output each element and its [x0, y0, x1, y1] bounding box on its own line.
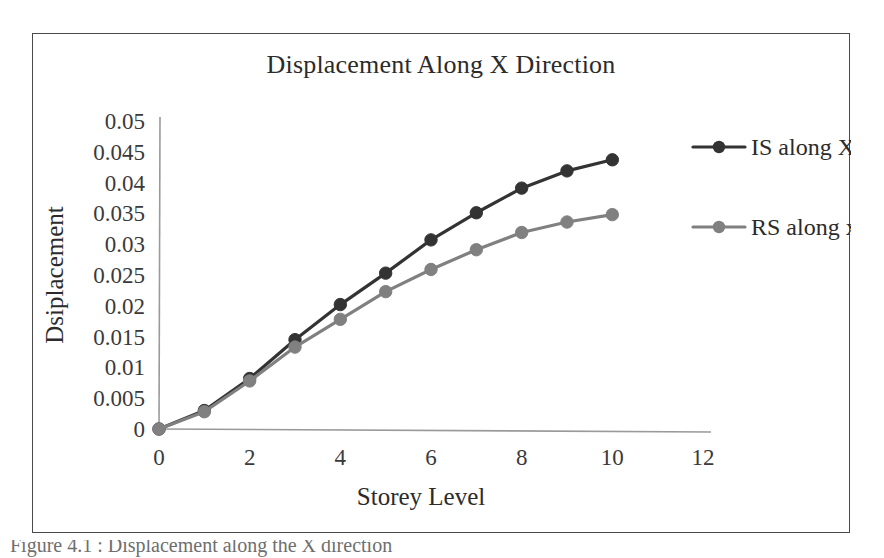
y-tick-label: 0.02 [105, 294, 145, 319]
data-point-marker[interactable] [515, 182, 527, 194]
figure-caption-strip: Figure 4.1 : Displacement along the X di… [0, 540, 884, 558]
x-axis-title: Storey Level [357, 483, 485, 510]
data-point-marker[interactable] [425, 234, 437, 246]
y-tick-label: 0 [134, 417, 146, 442]
legend-marker-icon [713, 221, 725, 233]
data-point-marker[interactable] [334, 313, 346, 325]
y-tick-label: 0.03 [105, 232, 145, 257]
data-point-marker[interactable] [379, 267, 391, 279]
series-2 [153, 208, 619, 435]
data-point-marker[interactable] [153, 423, 165, 435]
data-point-marker[interactable] [561, 165, 573, 177]
data-point-marker[interactable] [379, 285, 391, 297]
y-tick-label: 0.025 [93, 263, 145, 288]
y-tick-label: 0.01 [105, 355, 145, 380]
legend-label: RS along x [751, 214, 851, 240]
data-point-marker[interactable] [606, 154, 618, 166]
y-tick-label: 0.04 [105, 171, 146, 196]
legend-label: IS along X [751, 134, 851, 160]
x-tick-label: 10 [601, 445, 624, 470]
data-point-marker[interactable] [470, 244, 482, 256]
x-tick-label: 6 [425, 445, 437, 470]
figure-caption: Figure 4.1 : Displacement along the X di… [10, 540, 392, 557]
data-point-marker[interactable] [334, 298, 346, 310]
legend-marker-icon [713, 141, 725, 153]
data-point-marker[interactable] [425, 263, 437, 275]
y-tick-label: 0.045 [93, 140, 145, 165]
series-line [159, 215, 612, 429]
x-axis-line [159, 429, 711, 432]
x-tick-label: 8 [516, 445, 528, 470]
data-point-marker[interactable] [470, 207, 482, 219]
data-point-marker[interactable] [198, 406, 210, 418]
y-tick-label: 0.035 [93, 201, 145, 226]
x-tick-label: 4 [335, 445, 347, 470]
figure-container: Displacement Along X Direction 00.0050.0… [0, 0, 884, 558]
x-tick-label: 0 [153, 445, 165, 470]
y-tick-label: 0.015 [93, 325, 145, 350]
data-point-marker[interactable] [606, 208, 618, 220]
x-tick-label: 12 [692, 445, 715, 470]
chart-plot-area: 00.0050.010.0150.020.0250.030.0350.040.0… [33, 34, 851, 534]
y-axis-title: Dsiplacement [41, 206, 68, 344]
x-tick-label: 2 [244, 445, 256, 470]
data-point-marker[interactable] [561, 216, 573, 228]
chart-frame: Displacement Along X Direction 00.0050.0… [32, 33, 850, 533]
legend-item-1[interactable]: IS along X [693, 134, 851, 160]
y-tick-label: 0.005 [93, 386, 145, 411]
y-axis-line [159, 117, 160, 429]
data-point-marker[interactable] [515, 226, 527, 238]
y-tick-label: 0.05 [105, 109, 145, 134]
legend-item-2[interactable]: RS along x [693, 214, 851, 240]
data-point-marker[interactable] [289, 341, 301, 353]
data-point-marker[interactable] [243, 375, 255, 387]
